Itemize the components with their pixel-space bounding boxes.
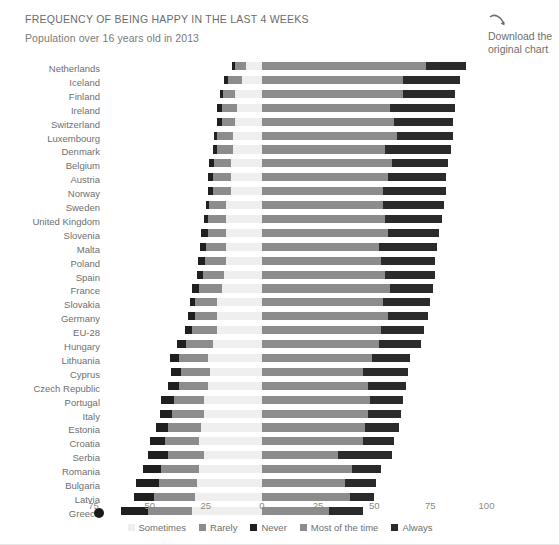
legend-item[interactable]: Always bbox=[391, 522, 432, 533]
legend-item[interactable]: Never bbox=[250, 522, 286, 533]
y-axis-label: Slovenia bbox=[0, 229, 100, 243]
legend-swatch bbox=[128, 524, 135, 531]
bar-segment bbox=[262, 76, 403, 84]
bar-segment bbox=[208, 229, 226, 237]
bar-segment bbox=[379, 340, 422, 348]
bar-segment bbox=[217, 298, 262, 306]
bar-segment bbox=[365, 423, 399, 431]
bar-segment bbox=[206, 201, 209, 209]
bar-segment bbox=[160, 410, 172, 418]
chart-row: Hungary bbox=[0, 340, 560, 354]
legend-label: Never bbox=[261, 522, 286, 533]
bar-segment bbox=[262, 62, 426, 70]
chart-row: Belgium bbox=[0, 159, 560, 173]
y-axis-label: Austria bbox=[0, 173, 100, 187]
bar-segment bbox=[262, 284, 390, 292]
chart-row: Romania bbox=[0, 465, 560, 479]
bar-segment bbox=[150, 437, 166, 445]
bar-segment bbox=[192, 284, 199, 292]
chart-legend: SometimesRarelyNeverMost of the timeAlwa… bbox=[0, 522, 560, 533]
y-axis-label: Spain bbox=[0, 271, 100, 285]
x-axis-tick: 50 bbox=[130, 500, 170, 511]
bar-segment bbox=[204, 410, 262, 418]
legend-item[interactable]: Sometimes bbox=[128, 522, 187, 533]
bar-segment bbox=[381, 326, 424, 334]
bar-segment bbox=[363, 368, 408, 376]
bar-segment bbox=[372, 354, 410, 362]
x-axis-tick: 100 bbox=[467, 500, 507, 511]
bar-segment bbox=[168, 451, 204, 459]
y-axis-label: Serbia bbox=[0, 451, 100, 465]
chart-row: Netherlands bbox=[0, 62, 560, 76]
bar-segment bbox=[136, 479, 158, 487]
y-axis-label: Estonia bbox=[0, 423, 100, 437]
bar-segment bbox=[217, 104, 221, 112]
chart-row: Slovakia bbox=[0, 298, 560, 312]
bar-segment bbox=[172, 410, 203, 418]
legend-label: Most of the time bbox=[311, 522, 379, 533]
bar-segment bbox=[262, 382, 368, 390]
bar-segment bbox=[213, 340, 262, 348]
bar-segment bbox=[262, 271, 385, 279]
bar-segment bbox=[200, 243, 206, 251]
bar-segment bbox=[171, 368, 181, 376]
legend-swatch bbox=[391, 524, 398, 531]
y-axis-label: Cyprus bbox=[0, 368, 100, 382]
bar-segment bbox=[262, 173, 388, 181]
y-axis-label: Luxembourg bbox=[0, 132, 100, 146]
bar-segment bbox=[224, 271, 262, 279]
bar-segment bbox=[168, 423, 202, 431]
y-axis-label: Croatia bbox=[0, 437, 100, 451]
chart-plot-area: NetherlandsIcelandFinlandIrelandSwitzerl… bbox=[0, 0, 560, 545]
bar-segment bbox=[338, 451, 392, 459]
bar-segment bbox=[213, 187, 231, 195]
chart-row: Slovenia bbox=[0, 229, 560, 243]
chart-row: Finland bbox=[0, 90, 560, 104]
chart-row: Cyprus bbox=[0, 368, 560, 382]
bar-segment bbox=[370, 396, 404, 404]
bar-segment bbox=[226, 201, 262, 209]
bar-segment bbox=[168, 382, 179, 390]
bar-segment bbox=[385, 145, 450, 153]
x-axis-tick: 75 bbox=[410, 500, 450, 511]
bar-segment bbox=[383, 298, 430, 306]
chart-row: Lithuania bbox=[0, 354, 560, 368]
chart-row: Italy bbox=[0, 410, 560, 424]
chart-row: Poland bbox=[0, 257, 560, 271]
x-axis-tick: 0 bbox=[242, 500, 282, 511]
bar-segment bbox=[235, 90, 262, 98]
bar-segment bbox=[203, 271, 224, 279]
chart-row: Portugal bbox=[0, 396, 560, 410]
bar-segment bbox=[235, 118, 262, 126]
bar-segment bbox=[397, 132, 453, 140]
legend-item[interactable]: Rarely bbox=[199, 522, 237, 533]
bar-segment bbox=[220, 90, 222, 98]
y-axis-label: Denmark bbox=[0, 145, 100, 159]
y-axis-label: Norway bbox=[0, 187, 100, 201]
bar-segment bbox=[190, 298, 194, 306]
bar-segment bbox=[392, 159, 448, 167]
bar-segment bbox=[231, 159, 262, 167]
chart-row: Luxembourg bbox=[0, 132, 560, 146]
bar-segment bbox=[383, 201, 444, 209]
bar-segment bbox=[197, 479, 262, 487]
bar-segment bbox=[208, 173, 212, 181]
bar-segment bbox=[214, 159, 231, 167]
bar-segment bbox=[226, 257, 262, 265]
bar-segment bbox=[222, 118, 235, 126]
bar-segment bbox=[262, 187, 383, 195]
bar-segment bbox=[262, 410, 368, 418]
bar-segment bbox=[383, 187, 446, 195]
bar-segment bbox=[262, 257, 381, 265]
y-axis-label: Bulgaria bbox=[0, 479, 100, 493]
bar-segment bbox=[231, 173, 262, 181]
bar-segment bbox=[210, 368, 262, 376]
bar-segment bbox=[224, 76, 228, 84]
bar-segment bbox=[246, 62, 262, 70]
bar-segment bbox=[403, 90, 455, 98]
bar-segment bbox=[226, 243, 262, 251]
legend-item[interactable]: Most of the time bbox=[300, 522, 379, 533]
bar-segment bbox=[209, 201, 226, 209]
bar-segment bbox=[195, 298, 217, 306]
bar-segment bbox=[262, 159, 392, 167]
